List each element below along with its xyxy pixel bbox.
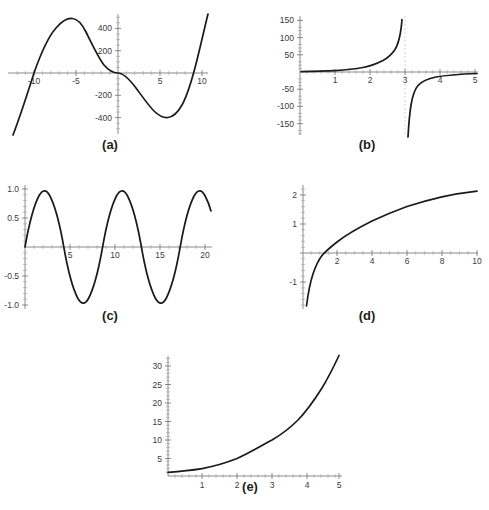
plot-d-curve (307, 191, 478, 306)
plot-b-ylabel-2: -50 (282, 84, 295, 94)
plot-e-svg: 1 2 3 4 5 5 10 15 20 25 30 (110, 348, 390, 498)
plot-e-ylabel-2: 15 (153, 417, 163, 427)
plot-c-ylabel-1: -0.5 (4, 271, 19, 281)
plot-b-ylabel-3: 50 (285, 50, 295, 60)
plot-d-ylabel-0: -1 (289, 277, 297, 287)
plot-b-xlabel-0: 1 (333, 75, 338, 85)
plot-a-ylabel-1: -200 (95, 90, 112, 100)
plot-c-xlabel-2: 15 (155, 250, 165, 260)
plot-b-xlabel-4: 5 (473, 75, 478, 85)
panel-e-caption: (e) (110, 479, 390, 494)
plot-b-ylabel-0: -150 (277, 119, 294, 129)
plot-a-xlabel-2: 5 (158, 76, 163, 86)
plot-b-curve-right (408, 74, 477, 138)
figure-sheet: -10 -5 5 10 -400 -200 200 400 (a) (0, 0, 489, 510)
plot-e-ylabel-5: 30 (153, 361, 163, 371)
plot-e-ylabel-0: 5 (157, 454, 162, 464)
plot-d-xlabel-0: 2 (335, 256, 340, 266)
plot-c-svg: 5 10 15 20 -1.0 -0.5 0.5 1.0 (0, 175, 225, 315)
plot-b-svg: 1 2 3 4 5 -150 -100 -50 50 100 150 (245, 4, 489, 139)
plot-a-ylabel-0: -400 (95, 113, 112, 123)
plot-d-y-ticks (300, 189, 306, 305)
plot-d-ylabel-2: 2 (292, 190, 297, 200)
panel-b: 1 2 3 4 5 -150 -100 -50 50 100 150 (b) (245, 4, 489, 139)
plot-b-curve-left (301, 20, 402, 72)
plot-c-xlabel-0: 5 (68, 250, 73, 260)
plot-b-xlabel-2: 3 (403, 75, 408, 85)
plot-a-ylabel-3: 400 (98, 23, 112, 33)
plot-a-xlabel-1: -5 (72, 76, 80, 86)
plot-c-ylabel-2: 0.5 (7, 213, 19, 223)
plot-e-ylabel-4: 25 (153, 380, 163, 390)
panel-c: 5 10 15 20 -1.0 -0.5 0.5 1.0 (c) (0, 175, 225, 315)
panel-d: 2 4 6 8 10 -1 1 2 (d) (245, 175, 489, 315)
plot-e-curve (168, 356, 339, 473)
plot-d-svg: 2 4 6 8 10 -1 1 2 (245, 175, 489, 315)
plot-b-xlabel-1: 2 (368, 75, 373, 85)
plot-d-xlabel-4: 10 (472, 256, 482, 266)
panel-c-caption: (c) (0, 308, 220, 323)
plot-a-ylabel-2: 200 (98, 46, 112, 56)
panel-d-caption: (d) (245, 308, 489, 323)
plot-b-ylabel-5: 150 (280, 15, 294, 25)
plot-d-xlabel-1: 4 (370, 256, 375, 266)
panel-b-caption: (b) (245, 137, 489, 152)
panel-a-caption: (a) (0, 137, 220, 152)
panel-a: -10 -5 5 10 -400 -200 200 400 (a) (0, 4, 225, 139)
plot-d-xlabel-3: 8 (440, 256, 445, 266)
plot-b-ylabel-4: 100 (280, 33, 294, 43)
plot-c-ylabel-3: 1.0 (7, 184, 19, 194)
panel-e: 1 2 3 4 5 5 10 15 20 25 30 (e) (110, 348, 390, 498)
plot-d-ylabel-1: 1 (292, 219, 297, 229)
plot-c-xlabel-3: 20 (200, 250, 210, 260)
plot-a-svg: -10 -5 5 10 -400 -200 200 400 (0, 4, 225, 139)
plot-e-ylabel-3: 20 (153, 398, 163, 408)
plot-b-ylabel-1: -100 (277, 101, 294, 111)
plot-d-xlabel-2: 6 (405, 256, 410, 266)
plot-a-xlabel-3: 10 (197, 76, 207, 86)
plot-e-ylabel-1: 10 (153, 435, 163, 445)
plot-c-xlabel-1: 10 (110, 250, 120, 260)
